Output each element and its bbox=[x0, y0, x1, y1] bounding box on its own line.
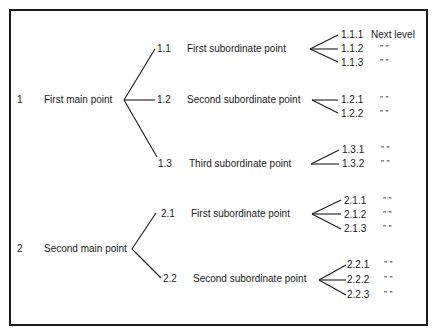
main-point-label: Second main point bbox=[44, 243, 127, 255]
subpoint-number: 2.2 bbox=[163, 273, 177, 285]
main-point-number: 1 bbox=[17, 94, 23, 106]
ditto-marks: ” ” bbox=[384, 273, 393, 285]
subpoint-number: 1.3 bbox=[158, 158, 172, 170]
next-level-number: 2.2.2 bbox=[347, 274, 369, 286]
subpoint-label: Second subordinate point bbox=[193, 273, 306, 285]
subpoint-number: 1.1 bbox=[157, 43, 171, 55]
next-level-number: 1.3.1 bbox=[342, 144, 364, 156]
next-level-number: 1.3.2 bbox=[342, 158, 364, 170]
ditto-marks: ” ” bbox=[381, 143, 390, 155]
subpoint-label: First subordinate point bbox=[187, 43, 286, 55]
ditto-marks: ” ” bbox=[380, 56, 389, 68]
subpoint-number: 1.2 bbox=[157, 94, 171, 106]
ditto-marks: ” ” bbox=[381, 157, 390, 169]
ditto-marks: ” ” bbox=[383, 222, 392, 234]
next-level-label: Next level bbox=[371, 29, 415, 41]
subpoint-label: Second subordinate point bbox=[187, 94, 300, 106]
next-level-number: 2.1.1 bbox=[344, 195, 366, 207]
next-level-number: 2.1.2 bbox=[344, 209, 366, 221]
next-level-number: 1.2.2 bbox=[341, 108, 363, 120]
subpoint-label: Third subordinate point bbox=[189, 158, 291, 170]
next-level-number: 1.1.3 bbox=[341, 57, 363, 69]
next-level-number: 2.2.3 bbox=[347, 289, 369, 301]
next-level-number: 2.2.1 bbox=[347, 259, 369, 271]
ditto-marks: ” ” bbox=[380, 107, 389, 119]
next-level-number: 1.1.1 bbox=[341, 29, 363, 41]
main-point-label: First main point bbox=[44, 94, 112, 106]
ditto-marks: ” ” bbox=[384, 288, 393, 300]
ditto-marks: ” ” bbox=[380, 42, 389, 54]
ditto-marks: ” ” bbox=[384, 258, 393, 270]
next-level-number: 1.2.1 bbox=[341, 94, 363, 106]
ditto-marks: ” ” bbox=[383, 194, 392, 206]
subpoint-label: First subordinate point bbox=[191, 208, 290, 220]
next-level-number: 1.1.2 bbox=[341, 43, 363, 55]
ditto-marks: ” ” bbox=[380, 93, 389, 105]
subpoint-number: 2.1 bbox=[161, 208, 175, 220]
next-level-number: 2.1.3 bbox=[344, 223, 366, 235]
ditto-marks: ” ” bbox=[383, 208, 392, 220]
main-point-number: 2 bbox=[17, 243, 23, 255]
